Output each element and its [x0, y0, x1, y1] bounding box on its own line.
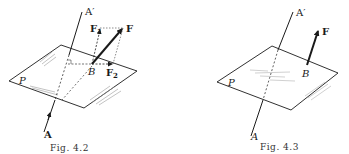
axis-line-upper — [278, 12, 293, 50]
caption-fig-4-2: Fig. 4.2 — [50, 143, 89, 153]
force-f-vector — [307, 31, 318, 65]
label-f1: F1 — [90, 23, 102, 36]
axis-line-upper — [69, 12, 82, 55]
figure-4-3: A′ A P B F Fig. 4.3 — [217, 7, 338, 152]
plane-p — [217, 46, 338, 110]
label-a: A — [43, 129, 52, 140]
label-f: F — [322, 26, 329, 37]
label-p: P — [18, 75, 26, 86]
label-a: A — [250, 131, 258, 142]
axis-line-hidden — [55, 55, 69, 100]
label-b: B — [301, 68, 309, 79]
diagram-canvas: A′ A P B F F1 F2 Fig. 4.2 A′ A P B — [0, 0, 349, 154]
label-b: B — [87, 66, 95, 77]
figure-4-2: A′ A P B F F1 F2 Fig. 4.2 — [9, 6, 137, 153]
label-f: F — [126, 23, 133, 34]
label-a-prime: A′ — [84, 6, 95, 17]
axis-line-hidden — [263, 50, 278, 100]
label-f2: F2 — [106, 67, 118, 80]
caption-fig-4-3: Fig. 4.3 — [260, 142, 299, 152]
plane-shading — [250, 70, 331, 100]
label-a-prime: A′ — [295, 7, 306, 18]
right-angle-mark — [68, 60, 71, 64]
label-p: P — [227, 77, 235, 88]
plane-shading — [30, 52, 121, 105]
